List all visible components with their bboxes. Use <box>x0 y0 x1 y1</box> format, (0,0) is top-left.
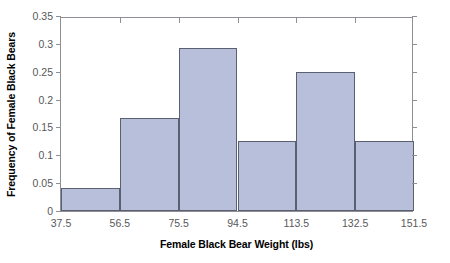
y-tick-mark <box>56 155 61 156</box>
y-tick-label: 0.05 <box>33 177 53 189</box>
y-tick-label: 0.25 <box>33 66 53 78</box>
y-tick-mark-right <box>412 183 417 184</box>
x-tick-mark-top <box>179 18 180 23</box>
histogram-bar <box>355 141 414 211</box>
y-tick-mark <box>56 44 61 45</box>
histogram-bar <box>238 141 297 211</box>
histogram-bar <box>61 188 120 211</box>
y-tick-mark-right <box>412 16 417 17</box>
x-tick-mark-top <box>296 18 297 23</box>
x-tick-label: 151.5 <box>401 217 427 229</box>
y-tick-mark <box>56 183 61 184</box>
x-tick-label: 56.5 <box>110 217 130 229</box>
y-tick-label: 0.2 <box>38 94 53 106</box>
y-tick-mark-right <box>412 44 417 45</box>
y-tick-mark-right <box>412 100 417 101</box>
plot-area: 00.050.10.150.20.250.30.35 37.556.575.59… <box>60 17 413 212</box>
y-tick-label: 0.35 <box>33 10 53 22</box>
y-tick-mark <box>56 100 61 101</box>
x-tick-label: 37.5 <box>51 217 71 229</box>
x-tick-mark-top <box>120 18 121 23</box>
x-tick-label: 94.5 <box>227 217 247 229</box>
y-tick-mark <box>56 16 61 17</box>
histogram-bar <box>120 118 179 211</box>
x-tick-label: 75.5 <box>168 217 188 229</box>
y-tick-mark-right <box>412 127 417 128</box>
y-tick-mark-right <box>412 155 417 156</box>
x-tick-mark-top <box>355 18 356 23</box>
y-tick-mark <box>56 127 61 128</box>
y-tick-mark <box>56 72 61 73</box>
histogram-bar <box>296 72 355 211</box>
x-tick-label: 113.5 <box>284 217 310 229</box>
y-tick-mark-right <box>412 72 417 73</box>
y-tick-label: 0.3 <box>38 38 53 50</box>
y-tick-label: 0.1 <box>38 149 53 161</box>
x-tick-label: 132.5 <box>342 217 368 229</box>
histogram-bar <box>179 48 238 211</box>
bars-group <box>61 18 412 211</box>
x-axis-title: Female Black Bear Weight (lbs) <box>60 238 413 250</box>
histogram-figure: Frequency of Female Black Bears 00.050.1… <box>0 0 450 263</box>
y-tick-mark <box>56 211 61 212</box>
x-tick-mark-top <box>238 18 239 23</box>
y-tick-label: 0.15 <box>33 121 53 133</box>
y-tick-label: 0 <box>47 205 53 217</box>
y-axis-title: Frequency of Female Black Bears <box>2 17 20 212</box>
